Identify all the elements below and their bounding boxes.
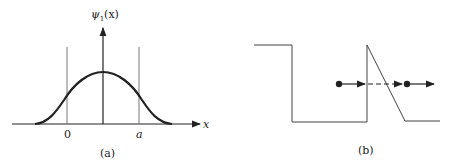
- x-axis-label: x: [203, 118, 210, 131]
- caption-b: (b): [358, 144, 374, 157]
- panel-a-wavefunction-plot: ψ1(x) x 0 a (a): [12, 8, 210, 160]
- y-axis-label: ψ1(x): [91, 8, 119, 23]
- tick-label-zero: 0: [64, 128, 71, 141]
- figure: ψ1(x) x 0 a (a) (b): [0, 0, 450, 166]
- caption-a: (a): [100, 147, 115, 160]
- panel-b-potential-diagram: (b): [254, 45, 440, 157]
- tick-label-a: a: [136, 128, 143, 141]
